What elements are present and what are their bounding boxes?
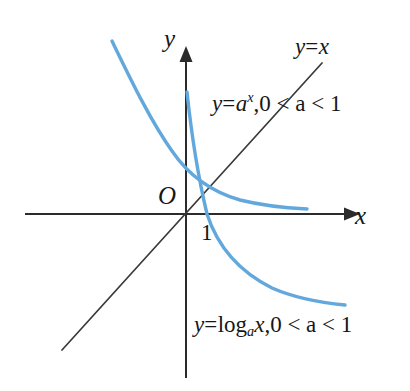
origin-label: O <box>158 183 176 208</box>
identity-line-label: y=x <box>295 35 329 58</box>
identity-rhs: x <box>319 34 329 59</box>
x-axis-label: x <box>355 203 366 228</box>
logarithmic-label: y=logax,0 < a < 1 <box>194 313 352 336</box>
logarithmic-lhs: y <box>194 312 204 337</box>
exponential-equals: = <box>222 91 235 116</box>
exponential-label: y=ax,0 < a < 1 <box>212 92 341 115</box>
y-axis-arrow-icon <box>180 46 193 62</box>
exponential-condition: 0 < a < 1 <box>259 91 341 116</box>
identity-lhs: y <box>295 34 305 59</box>
x-tick-label-one: 1 <box>201 221 213 244</box>
logarithmic-equals: = <box>204 312 217 337</box>
exponential-lhs: y <box>212 91 222 116</box>
identity-equals: = <box>305 34 318 59</box>
logarithmic-argument: x <box>254 312 264 337</box>
logarithmic-condition: 0 < a < 1 <box>270 312 352 337</box>
logarithmic-function: log <box>218 312 247 337</box>
y-axis-label: y <box>164 26 175 51</box>
math-figure: y x O 1 y=x y=ax,0 < a < 1 y=logax,0 < a… <box>0 0 410 391</box>
exponential-curve <box>112 41 307 209</box>
exponential-base: a <box>236 91 248 116</box>
